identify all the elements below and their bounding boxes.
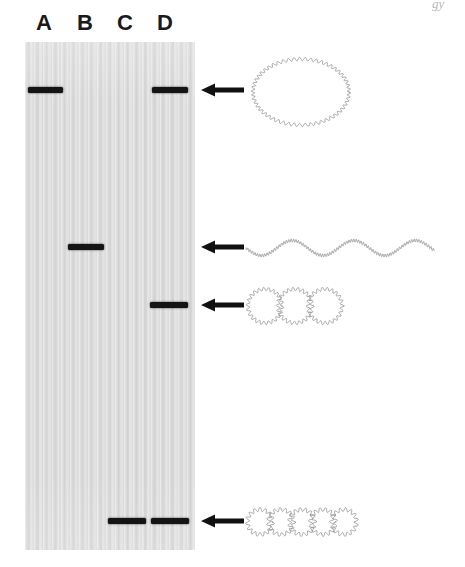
band-lane-c-row4: [108, 518, 146, 524]
catenated-dna-pentamer-icon: [245, 505, 355, 539]
figure-root: gy A B C D: [0, 0, 465, 567]
lane-label-c: C: [112, 12, 138, 34]
arrow-linear-dna: [199, 238, 245, 256]
lane-label-a: A: [31, 12, 57, 34]
circular-dna-monomer-icon: [245, 52, 357, 132]
band-lane-d-row4: [151, 518, 189, 524]
linear-dna-strand-icon: [243, 228, 437, 268]
band-lane-d-row3: [150, 302, 188, 308]
band-lane-b-row2: [68, 244, 104, 250]
band-lane-a-row1: [28, 87, 63, 93]
edge-artifact-text: gy: [432, 0, 462, 12]
catenated-dna-trimer-icon: [245, 286, 345, 326]
lane-label-b: B: [72, 12, 98, 34]
lane-label-d: D: [152, 12, 178, 34]
arrow-catenated-trimer: [199, 296, 245, 314]
gel-vignette: [25, 42, 195, 550]
arrow-monomer-circle: [199, 81, 245, 99]
band-lane-d-row1: [152, 87, 188, 93]
gel-slab: [25, 42, 195, 550]
arrow-catenated-pentamer: [199, 512, 245, 530]
